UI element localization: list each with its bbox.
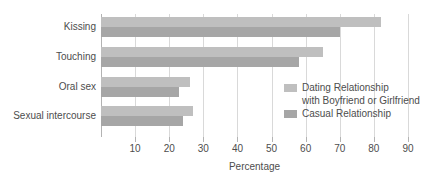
x-tick-mark [169, 137, 170, 142]
x-tick-mark [135, 137, 136, 142]
x-tick-label: 60 [291, 143, 321, 154]
bar-group [101, 47, 408, 69]
legend-item-dating: Dating Relationship [284, 81, 440, 94]
x-tick-label: 30 [188, 143, 218, 154]
bar-casual [101, 87, 179, 97]
category-label: Sexual intercourse [0, 110, 96, 121]
bar-casual [101, 116, 183, 126]
x-axis-title: Percentage [101, 161, 408, 172]
bar-dating [101, 77, 190, 87]
bar-dating [101, 17, 381, 27]
legend-item-casual: Casual Relationship [284, 107, 440, 120]
x-tick-mark [374, 137, 375, 142]
x-tick-label: 90 [393, 143, 423, 154]
x-tick-mark [272, 137, 273, 142]
bar-casual [101, 57, 299, 67]
legend-label-dating-line2: with Boyfriend or Girlfriend [302, 94, 420, 107]
x-tick-label: 80 [359, 143, 389, 154]
bar-casual [101, 27, 340, 37]
x-tick-label: 70 [325, 143, 355, 154]
bar-chart: KissingTouchingOral sexSexual intercours… [0, 0, 440, 187]
category-axis-labels: KissingTouchingOral sexSexual intercours… [0, 14, 96, 137]
category-label: Kissing [0, 21, 96, 32]
category-label: Touching [0, 51, 96, 62]
legend-item-dating-continuation: with Boyfriend or Girlfriend [284, 94, 440, 107]
x-tick-mark [340, 137, 341, 142]
legend: Dating Relationship with Boyfriend or Gi… [284, 81, 440, 120]
x-tick-label: 40 [222, 143, 252, 154]
legend-swatch-casual-icon [284, 110, 297, 118]
legend-label-casual: Casual Relationship [302, 107, 391, 120]
x-tick-mark [237, 137, 238, 142]
category-label: Oral sex [0, 81, 96, 92]
legend-swatch-dating-icon [284, 84, 297, 92]
x-tick-mark [408, 137, 409, 142]
x-tick-label: 50 [257, 143, 287, 154]
bar-group [101, 17, 408, 39]
x-tick-label: 20 [154, 143, 184, 154]
x-tick-mark [203, 137, 204, 142]
x-tick-label: 10 [120, 143, 150, 154]
legend-label-dating-line1: Dating Relationship [302, 81, 389, 94]
bar-dating [101, 47, 323, 57]
bar-dating [101, 106, 193, 116]
x-tick-mark [306, 137, 307, 142]
